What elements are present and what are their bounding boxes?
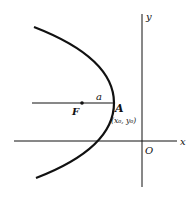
segment-a-label: a <box>96 91 102 102</box>
focus-point <box>80 101 84 105</box>
focus-label: F <box>71 106 80 117</box>
origin-label: O <box>145 145 153 156</box>
parabola-diagram: y x O F a A (x₀, y₀) <box>0 0 195 199</box>
x-axis-label: x <box>180 136 186 147</box>
y-axis-label: y <box>145 11 152 22</box>
vertex-label: A <box>114 102 124 115</box>
vertex-coords-label: (x₀, y₀) <box>111 116 136 125</box>
